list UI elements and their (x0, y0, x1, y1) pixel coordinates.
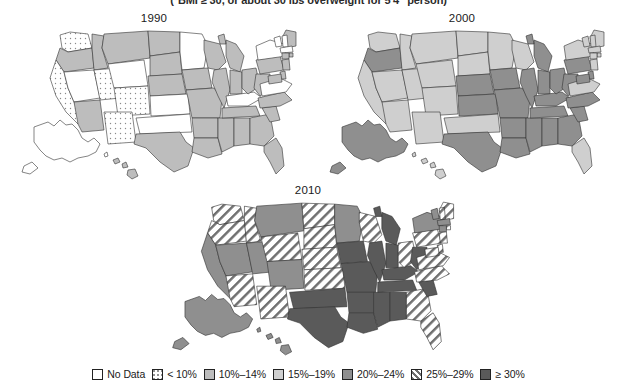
state-HI3 (275, 337, 281, 343)
state-ND (148, 31, 180, 56)
state-AR (192, 118, 218, 138)
state-TX (442, 132, 502, 172)
state-SD (458, 52, 490, 76)
state-NM (412, 112, 444, 144)
legend-item-gte30: ≥ 30% (480, 368, 524, 380)
legend-swatch-20-24 (342, 369, 353, 380)
state-MD (425, 247, 439, 257)
state-HI (104, 152, 108, 157)
state-MN (180, 32, 208, 70)
state-AL (234, 118, 250, 146)
state-NJ (282, 59, 290, 70)
state-CT (282, 53, 289, 59)
legend-label-20-24: 20%–24% (357, 368, 404, 380)
map-legend: No Data < 10% 10%–14% 15%–19% 20%–24% 25… (0, 364, 617, 384)
state-HI3 (122, 162, 128, 168)
state-WI (359, 212, 382, 243)
state-TN (530, 106, 568, 118)
state-AL (390, 292, 406, 321)
state-CO (267, 260, 304, 291)
map-title-1990: 1990 (8, 12, 300, 24)
state-RI (289, 53, 293, 57)
state-HI2 (266, 333, 273, 339)
legend-swatch-nodata (92, 369, 103, 380)
state-IN (538, 70, 550, 94)
state-NE (456, 74, 494, 96)
state-WI (204, 40, 226, 70)
legend-item-10-14: 10%–14% (204, 368, 266, 380)
state-MD (268, 74, 282, 84)
state-LA (347, 313, 378, 334)
state-WY (261, 233, 302, 262)
state-CT (439, 226, 446, 232)
state-MT (102, 31, 150, 64)
legend-label-25-29: 25%–29% (426, 368, 473, 380)
us-choropleth-map-2000 (316, 26, 608, 184)
state-AR (347, 292, 374, 313)
state-MS (218, 118, 234, 152)
map-title-2010: 2010 (158, 184, 458, 196)
legend-item-25-29: 25%–29% (411, 368, 473, 380)
state-KS (458, 94, 498, 116)
map-panel-2010: 2010 (158, 184, 458, 360)
state-TX (287, 307, 349, 348)
state-MD (576, 74, 590, 84)
legend-item-20-24: 20%–24% (342, 368, 404, 380)
legend-swatch-25-29 (411, 369, 422, 380)
chart-subtitle: (*BMI ≥ 30, or about 30 lbs overweight f… (0, 0, 617, 6)
state-HI4 (280, 345, 291, 355)
state-LA (192, 138, 222, 158)
state-AR (500, 118, 526, 138)
legend-swatch-10-14 (204, 369, 215, 380)
state-CO (114, 86, 150, 116)
legend-swatch-lt10 (152, 369, 163, 380)
state-NM (257, 286, 290, 319)
legend-item-nodata: No Data (92, 368, 145, 380)
legend-label-lt10: < 10% (167, 368, 197, 380)
state-RI (446, 226, 450, 230)
state-MT (410, 31, 458, 64)
state-NE (148, 74, 186, 96)
subtitle-clip: (*BMI ≥ 30, or about 30 lbs overweight f… (0, 0, 617, 9)
map-panel-1990: 1990 (8, 12, 300, 184)
legend-item-lt10: < 10% (152, 368, 197, 380)
state-ND (456, 31, 488, 56)
state-HI2 (421, 158, 428, 164)
legend-swatch-gte30 (480, 369, 491, 380)
state-KS (304, 268, 345, 291)
state-ND (302, 203, 335, 229)
state-NE (302, 247, 341, 270)
state-AL (542, 118, 558, 146)
state-CT (590, 53, 597, 59)
state-WI (512, 40, 534, 70)
state-MT (255, 203, 304, 237)
state-NH (590, 35, 596, 47)
state-CO (422, 86, 458, 116)
state-SD (304, 225, 337, 250)
state-NJ (439, 232, 447, 243)
map-panel-2000: 2000 (316, 12, 608, 184)
state-KS (150, 94, 190, 116)
state-HI4 (435, 169, 446, 179)
state-OK (136, 114, 192, 134)
state-NH (439, 207, 445, 219)
state-SD (150, 52, 182, 76)
state-MN (488, 32, 516, 70)
legend-item-15-19: 15%–19% (273, 368, 335, 380)
state-AZ (382, 100, 412, 132)
legend-swatch-15-19 (273, 369, 284, 380)
state-NM (104, 112, 136, 144)
state-IA (337, 241, 368, 264)
state-OK (290, 288, 347, 309)
state-AZ (74, 100, 104, 132)
state-WY (416, 60, 456, 88)
state-AZ (226, 274, 257, 307)
state-MN (335, 204, 364, 243)
legend-label-15-19: 15%–19% (288, 368, 335, 380)
state-WY (108, 60, 148, 88)
state-NJ (590, 59, 598, 70)
map-title-2000: 2000 (316, 12, 608, 24)
state-MS (526, 118, 542, 152)
state-IA (490, 68, 520, 90)
state-TN (222, 106, 260, 118)
